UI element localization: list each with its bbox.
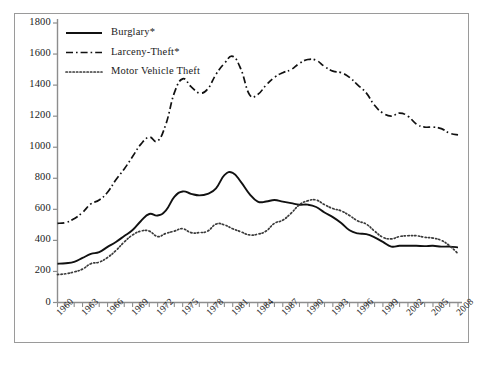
y-tick-label: 600: [19, 203, 51, 214]
y-tick-label: 200: [19, 265, 51, 276]
legend-label-2: Motor Vehicle Theft: [111, 65, 200, 76]
y-tick-label: 800: [19, 172, 51, 183]
y-tick-label: 1800: [19, 17, 51, 28]
y-tick-label: 1200: [19, 110, 51, 121]
legend-label-0: Burglary*: [111, 26, 155, 37]
y-tick-label: 0: [19, 297, 51, 308]
y-tick-label: 1600: [19, 48, 51, 59]
y-tick-label: 1000: [19, 141, 51, 152]
y-tick-label: 400: [19, 234, 51, 245]
series-line-0: [58, 172, 459, 264]
series-line-1: [58, 56, 459, 223]
legend-label-1: Larceny-Theft*: [111, 46, 180, 57]
chart-figure: 0200400600800100012001400160018001960196…: [0, 0, 483, 369]
y-tick-label: 1400: [19, 79, 51, 90]
series-line-2: [58, 200, 459, 275]
